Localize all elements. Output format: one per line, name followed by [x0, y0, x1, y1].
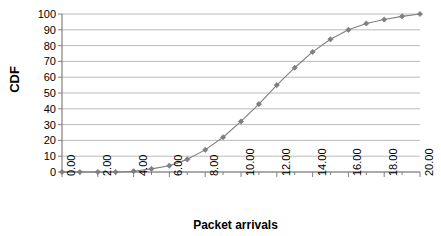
x-tick-label: 14.00 [317, 148, 328, 176]
x-tick-label: 2.00 [102, 155, 113, 176]
x-tick-label: 0.00 [66, 155, 77, 176]
x-tick-label: 10.00 [245, 148, 256, 176]
x-tick-label: 16.00 [352, 148, 363, 176]
x-tick-label: 20.00 [424, 148, 435, 176]
x-tick-label: 6.00 [173, 155, 184, 176]
x-tick-label: 4.00 [138, 155, 149, 176]
x-tick-label: 12.00 [281, 148, 292, 176]
x-axis-tick-labels: 0.002.004.006.008.0010.0012.0014.0016.00… [0, 0, 441, 236]
x-tick-label: 18.00 [388, 148, 399, 176]
x-axis-title: Packet arrivals [0, 218, 441, 232]
x-tick-label: 8.00 [209, 155, 220, 176]
chart-screenshot: CDF 0102030405060708090100 0.002.004.006… [0, 0, 441, 236]
